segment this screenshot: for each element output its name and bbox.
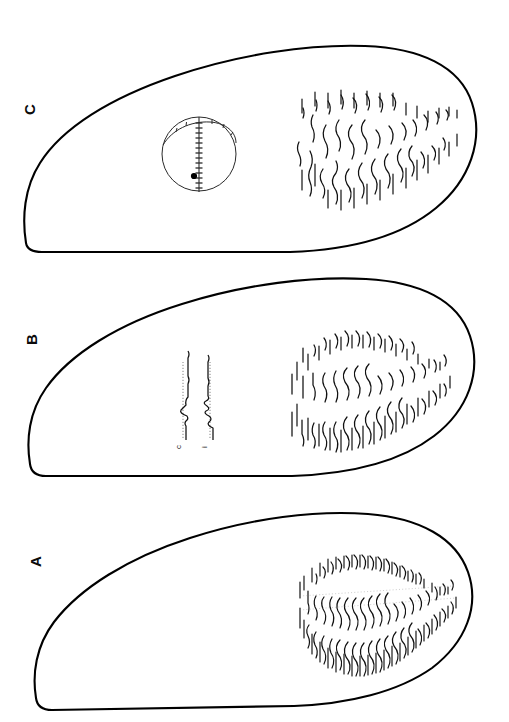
waveform-c-label: c xyxy=(175,445,183,449)
panel-c-outline xyxy=(24,46,476,252)
panel-b-graphic xyxy=(0,250,509,480)
panel-c-label: C xyxy=(22,104,37,115)
panel-a-graphic xyxy=(0,478,509,718)
figure-root: C xyxy=(0,0,509,722)
panel-b-label: B xyxy=(24,334,39,345)
panel-b: B c i xyxy=(0,250,509,480)
panel-c: C xyxy=(0,18,509,263)
panel-a-label: A xyxy=(28,556,43,567)
panel-c-graphic xyxy=(0,18,509,263)
stereonet-point-marker xyxy=(191,173,197,179)
panel-b-outline xyxy=(28,278,474,476)
panel-a: A xyxy=(0,478,509,718)
panel-a-outline xyxy=(35,513,473,710)
waveform-i-label: i xyxy=(201,446,209,448)
